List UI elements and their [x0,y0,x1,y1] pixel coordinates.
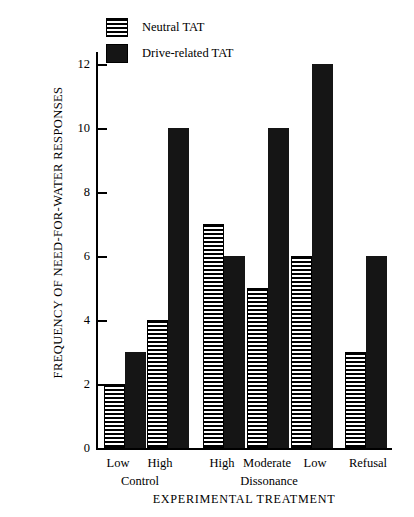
x-axis-level-label-control-low: Low [95,456,141,470]
x-axis-group-label-control: Control [105,474,175,488]
x-axis-level-label-refusal: Refusal [340,456,396,470]
x-axis-level-label-dissonance-low: Low [292,456,338,470]
bar-neutral-tat-high-1 [147,320,168,448]
bar-neutral-tat-refusal-5 [345,352,366,448]
bar-neutral-tat-moderate-3 [247,288,268,448]
bar-chart-figure: Neutral TAT Drive-related TAT 12 10 8 6 … [0,0,414,517]
bar-drive-related-tat-moderate-3 [268,128,289,448]
bar-neutral-tat-high-2 [203,224,224,448]
bar-neutral-tat-low-4 [291,256,312,448]
x-axis-level-label-dissonance-moderate: Moderate [234,456,300,470]
bar-drive-related-tat-low-4 [312,64,333,448]
x-axis-level-label-control-high: High [137,456,183,470]
bar-neutral-tat-low-0 [104,384,125,448]
x-axis-title: EXPERIMENTAL TREATMENT [96,492,392,507]
bar-drive-related-tat-high-2 [224,256,245,448]
bar-drive-related-tat-refusal-5 [366,256,387,448]
bars-layer [0,0,414,517]
bar-drive-related-tat-low-0 [125,352,146,448]
bar-drive-related-tat-high-1 [168,128,189,448]
x-axis-group-label-dissonance: Dissonance [226,474,312,488]
